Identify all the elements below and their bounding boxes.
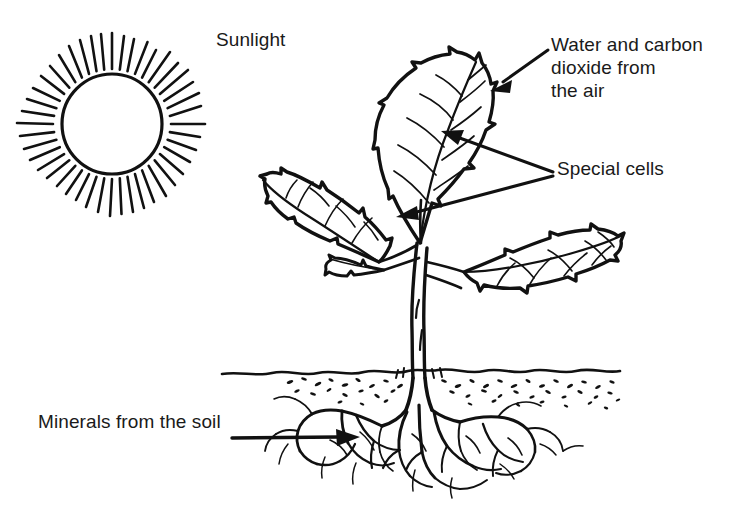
- leaf-left: [260, 168, 392, 262]
- label-special-cells: Special cells: [557, 157, 664, 180]
- leaf-right: [464, 224, 624, 293]
- arrow-special-cells-upper: [441, 130, 553, 172]
- label-water-and-carbon-dioxide: Water and carbon dioxide from the air: [551, 33, 703, 102]
- leaf-lower-left: [325, 255, 384, 276]
- sun-icon: [17, 33, 205, 216]
- sun-rays: [17, 33, 205, 216]
- label-minerals-from-the-soil: Minerals from the soil: [38, 410, 221, 433]
- soil-stipple: [286, 377, 620, 410]
- diagram-page: Sunlight Water and carbon dioxide from t…: [0, 0, 745, 521]
- stem-spurs: [416, 300, 422, 350]
- label-sunlight: Sunlight: [216, 28, 285, 51]
- soil-line: [222, 368, 621, 410]
- arrow-water-carbon: [490, 50, 548, 93]
